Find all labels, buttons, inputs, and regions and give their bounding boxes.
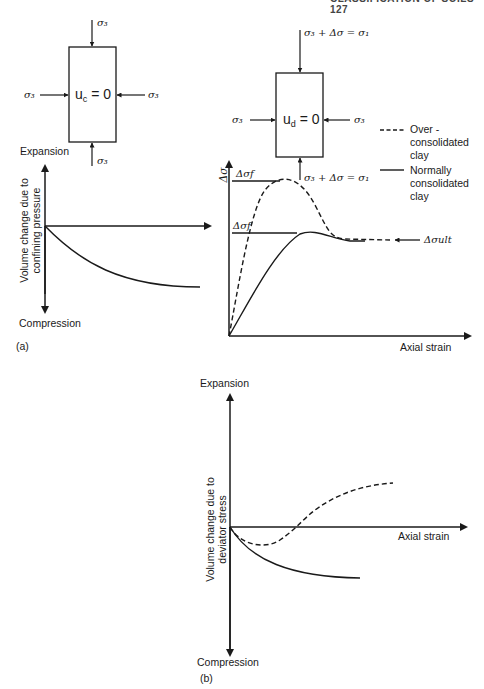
panel-a-label: (a) — [16, 340, 29, 352]
sample-b-top-stress: σ₃ + Δσ = σ₁ — [304, 27, 369, 39]
bottom-plot-y-axis-label: Volume change due to deviator stress — [204, 462, 228, 597]
panel-b-label: (b) — [200, 672, 213, 684]
bottom-plot-expansion-label: Expansion — [200, 377, 249, 389]
stress-plot-y-axis-label: Δσ — [217, 165, 229, 185]
oc-volume-curve — [230, 483, 393, 545]
volume-change-confining-plot — [45, 166, 210, 312]
sample-b-left-stress: σ₃ — [232, 114, 243, 126]
sample-a-top-stress: σ₃ — [97, 17, 108, 29]
nc-peak-label: Δσf — [233, 220, 251, 232]
legend-normally-consolidated: Normally consolidated clay — [410, 164, 469, 203]
sample-a-right-stress: σ₃ — [148, 89, 159, 101]
ultimate-stress-label: Δσult — [424, 234, 452, 246]
nc-curve — [229, 232, 365, 336]
consolidation-curve — [45, 226, 200, 287]
left-plot-y-axis-label: Volume change due to confining pressure — [18, 163, 42, 298]
nc-volume-curve — [230, 527, 360, 578]
left-plot-compression-label: Compression — [19, 317, 81, 329]
left-plot-expansion-label: Expansion — [20, 145, 69, 157]
sample-b-bottom-stress: σ₃ + Δσ = σ₁ — [304, 172, 369, 184]
running-header: CLASSIFICATION OF SOILS 127 — [330, 0, 484, 15]
sample-a-pore-pressure: uc = 0 — [75, 88, 111, 105]
shear-sample — [250, 30, 350, 180]
oc-peak-label: Δσf — [236, 168, 254, 180]
sample-b-right-stress: σ₃ — [354, 114, 365, 126]
volume-change-deviator-plot — [230, 395, 466, 655]
sample-b-pore-pressure: ud = 0 — [283, 113, 320, 130]
sample-a-left-stress: σ₃ — [24, 89, 35, 101]
sample-a-bottom-stress: σ₃ — [97, 155, 108, 167]
bottom-plot-x-axis-label: Axial strain — [398, 530, 449, 542]
legend-overconsolidated: Over - consolidated clay — [410, 123, 469, 162]
bottom-plot-compression-label: Compression — [197, 656, 259, 668]
stress-plot-x-axis-label: Axial strain — [400, 341, 451, 353]
oc-curve — [229, 179, 390, 336]
